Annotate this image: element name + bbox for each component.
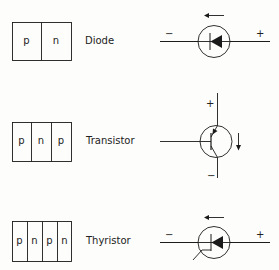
diode-label: Diode: [85, 35, 114, 46]
transistor-layer-n: n: [31, 135, 51, 146]
diode-plus-sign: +: [256, 28, 264, 39]
diode-symbol: [160, 13, 270, 58]
transistor-plus-sign: +: [206, 98, 214, 109]
diode-current-arrow: [204, 13, 224, 18]
thyristor-current-arrow: [204, 215, 224, 220]
thyristor-minus-sign: −: [165, 229, 173, 240]
transistor-label: Transistor: [86, 135, 135, 146]
thyristor-label: Thyristor: [86, 235, 131, 246]
transistor-layer-p1: p: [12, 135, 31, 146]
diode-layer-p: p: [12, 35, 41, 46]
thyristor-layer-n2: n: [57, 235, 72, 246]
diode-layer-n: n: [41, 35, 71, 46]
transistor-minus-sign: −: [207, 170, 215, 181]
collector-line: [211, 146, 218, 158]
thyristor-layer-p2: p: [42, 235, 57, 246]
transistor-symbol: [160, 93, 241, 178]
transistor-layer-p2: p: [51, 135, 71, 146]
diode-minus-sign: −: [165, 28, 173, 39]
thyristor-symbol: [160, 215, 270, 260]
thyristor-layer-n1: n: [27, 235, 42, 246]
thyristor-layer-p1: p: [12, 235, 27, 246]
transistor-current-arrow: [236, 133, 241, 151]
thyristor-plus-sign: +: [256, 229, 264, 240]
